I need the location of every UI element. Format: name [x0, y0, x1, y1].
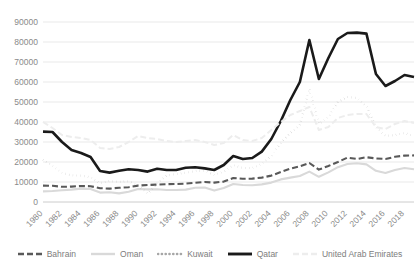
plot-area: 0100002000030000400005000060000700008000… — [0, 0, 419, 238]
legend-swatch-kuwait — [157, 249, 183, 259]
legend-item-united-arab-emirates[interactable]: United Arab Emirates — [292, 249, 402, 259]
line-chart-svg: 0100002000030000400005000060000700008000… — [0, 0, 419, 238]
y-tick-label: 90000 — [14, 17, 38, 27]
legend-swatch-bahrain — [17, 249, 43, 259]
x-tick-label: 2006 — [271, 208, 292, 229]
x-tick-label: 2004 — [252, 208, 273, 229]
legend-label: Bahrain — [47, 249, 76, 259]
x-tick-label: 1990 — [119, 208, 140, 229]
y-tick-label: 70000 — [14, 57, 38, 67]
y-tick-label: 50000 — [14, 97, 38, 107]
x-axis-tick-labels: 1980198219841986198819901992199419961998… — [24, 208, 406, 229]
legend-label: Qatar — [257, 249, 278, 259]
series-line-united-arab-emirates — [43, 107, 414, 149]
x-tick-label: 1996 — [176, 208, 197, 229]
x-tick-label: 2010 — [309, 208, 330, 229]
legend-item-bahrain[interactable]: Bahrain — [17, 249, 76, 259]
x-tick-label: 2012 — [328, 208, 349, 229]
chart-container: 0100002000030000400005000060000700008000… — [0, 0, 419, 268]
x-tick-label: 2002 — [233, 208, 254, 229]
x-tick-label: 1982 — [43, 208, 64, 229]
legend-label: Oman — [120, 249, 143, 259]
legend-label: Kuwait — [187, 249, 213, 259]
series-line-kuwait — [43, 89, 414, 194]
x-tick-label: 2008 — [290, 208, 311, 229]
x-tick-label: 2016 — [366, 208, 387, 229]
series-line-qatar — [43, 33, 414, 173]
data-series-group — [43, 33, 414, 194]
y-tick-label: 40000 — [14, 117, 38, 127]
x-tick-label: 1986 — [81, 208, 102, 229]
x-tick-label: 1994 — [157, 208, 178, 229]
y-tick-label: 60000 — [14, 77, 38, 87]
y-tick-label: 10000 — [14, 177, 38, 187]
x-tick-label: 2018 — [385, 208, 406, 229]
y-tick-label: 30000 — [14, 137, 38, 147]
legend-swatch-oman — [90, 249, 116, 259]
x-tick-label: 1998 — [195, 208, 216, 229]
legend-item-qatar[interactable]: Qatar — [227, 249, 278, 259]
legend-item-kuwait[interactable]: Kuwait — [157, 249, 213, 259]
x-tick-label: 1984 — [62, 208, 83, 229]
x-tick-label: 2000 — [214, 208, 235, 229]
x-tick-label: 1980 — [24, 208, 45, 229]
legend-item-oman[interactable]: Oman — [90, 249, 143, 259]
chart-legend: BahrainOmanKuwaitQatarUnited Arab Emirat… — [0, 240, 419, 268]
gridlines-group — [43, 22, 414, 202]
x-tick-label: 1988 — [100, 208, 121, 229]
y-tick-label: 80000 — [14, 37, 38, 47]
legend-swatch-qatar — [227, 249, 253, 259]
legend-label: United Arab Emirates — [322, 249, 402, 259]
y-tick-label: 0 — [33, 197, 38, 207]
legend-swatch-united-arab-emirates — [292, 249, 318, 259]
x-tick-label: 1992 — [138, 208, 159, 229]
x-tick-label: 2014 — [347, 208, 368, 229]
y-axis-tick-labels: 0100002000030000400005000060000700008000… — [14, 17, 38, 207]
y-tick-label: 20000 — [14, 157, 38, 167]
